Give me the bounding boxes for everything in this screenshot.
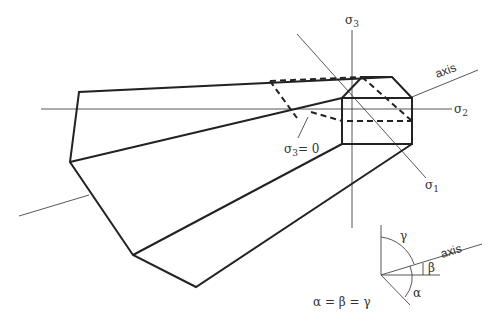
gamma-label: γ <box>400 229 407 243</box>
inset-axis-label: axis <box>439 241 464 261</box>
cone-edge-lower <box>133 144 342 255</box>
yield-surface-diagram: σ3 σ2 σ1 axis σ3= 0 γ β α axis α = β = γ <box>0 0 498 327</box>
beta-label: β <box>428 261 435 275</box>
cube-top-back-edge <box>362 77 412 98</box>
angle-inset: γ β α axis <box>381 225 482 305</box>
gamma-arc <box>381 237 414 264</box>
sigma3-label: σ3 <box>345 13 359 29</box>
sigma1-axis-line <box>297 34 426 178</box>
angle-equation: α = β = γ <box>313 295 371 309</box>
alpha-arc <box>405 266 412 297</box>
inset-diagonal-line <box>381 275 410 305</box>
hydrostatic-axis-lower <box>19 195 89 216</box>
hidden-edge-mid <box>311 112 342 121</box>
sigma3-equals-zero-label: σ3= 0 <box>284 142 319 158</box>
alpha-label: α <box>413 286 421 300</box>
sigma1-label: σ1 <box>425 178 439 194</box>
axis-label: axis <box>433 60 458 80</box>
annotation-leader-line <box>298 117 308 138</box>
sigma2-label: σ2 <box>454 102 468 118</box>
outer-cone-outline <box>70 77 412 287</box>
